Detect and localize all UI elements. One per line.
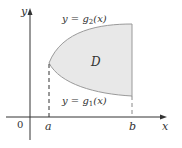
upper-curve-label: y = g2(x) bbox=[61, 13, 107, 26]
region-diagram: y x 0 a b D y = g2(x) y = g1(x) bbox=[0, 0, 182, 148]
region-label: D bbox=[90, 55, 101, 69]
lower-curve-suffix: (x) bbox=[93, 95, 107, 106]
y-axis-label: y bbox=[20, 5, 28, 18]
x-axis-label: x bbox=[162, 120, 169, 133]
y-axis-arrow-icon bbox=[28, 8, 33, 15]
lower-curve-label: y = g1(x) bbox=[61, 95, 107, 108]
tick-label-a: a bbox=[45, 120, 52, 133]
origin-label: 0 bbox=[17, 119, 23, 130]
upper-curve-prefix: y = g bbox=[61, 13, 89, 24]
lower-curve-prefix: y = g bbox=[61, 95, 89, 106]
x-axis-arrow-icon bbox=[160, 115, 167, 120]
tick-label-b: b bbox=[129, 120, 136, 133]
upper-curve-suffix: (x) bbox=[93, 13, 107, 24]
